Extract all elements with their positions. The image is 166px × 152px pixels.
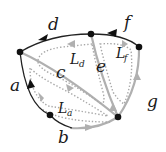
vertex-bottom-left (47, 112, 54, 119)
loop-label-la: L a (57, 100, 72, 118)
label-d: d (48, 14, 59, 34)
vertex-left (17, 49, 24, 56)
arrow-g-icon (133, 72, 141, 80)
vertex-bottom-right (115, 114, 122, 121)
svg-text:L: L (69, 51, 79, 67)
edge-a (20, 52, 50, 115)
svg-text:L: L (57, 100, 67, 116)
arrow-a-icon (27, 79, 35, 89)
label-a: a (10, 75, 20, 95)
vertex-right (136, 44, 143, 51)
arrow-e-icon (109, 103, 117, 111)
arrow-b-icon (85, 124, 95, 131)
label-f: f (122, 12, 133, 32)
edge-d (20, 34, 91, 52)
label-e: e (96, 56, 106, 76)
svg-text:f: f (123, 53, 129, 63)
arrow-c-icon (66, 84, 74, 92)
label-c: c (56, 62, 66, 82)
ribbon-graph-diagram: a b c d e f g L d L f L a (0, 0, 166, 152)
label-g: g (147, 91, 158, 111)
loop-label-ld: L d (69, 51, 85, 69)
edge-b-gray (70, 117, 118, 128)
vertex-top (88, 31, 95, 38)
svg-text:d: d (79, 59, 85, 69)
label-b: b (58, 127, 69, 147)
svg-text:a: a (67, 108, 72, 118)
